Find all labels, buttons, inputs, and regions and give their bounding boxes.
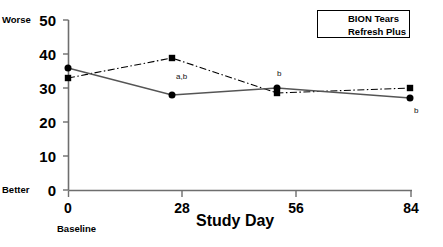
series-line-refresh-plus [68,58,410,93]
series-markers-bion-tears [65,65,414,102]
y-axis-bottom-label: Better [2,185,29,195]
x-axis-baseline-label: Baseline [57,224,96,234]
annotation-day84: b [414,107,418,115]
x-tick-label-0: 0 [48,201,88,215]
data-point-bion-0 [65,65,72,72]
annotation-day28: a,b [176,73,187,81]
chart-legend: BION Tears Refresh Plus [317,10,410,38]
legend-marker-square-icon [318,26,348,38]
y-tick-label-40: 40 [30,47,56,62]
x-axis-ticks [69,191,412,198]
y-tick-label-50: 50 [30,13,56,28]
y-tick-label-10: 10 [30,149,56,164]
data-point-bion-1 [169,92,176,99]
x-tick-label-84: 84 [391,201,431,215]
data-point-refresh-1 [169,55,175,61]
y-axis-top-label: Worse [2,15,31,25]
legend-item-refresh-plus: Refresh Plus [318,25,411,38]
legend-marker-circle-icon [318,13,348,25]
x-axis-title: Study Day [196,213,274,229]
y-tick-label-20: 20 [30,115,56,130]
data-point-bion-2 [274,85,281,92]
series-line-bion-tears [68,68,410,98]
data-point-bion-3 [407,95,414,102]
y-tick-label-30: 30 [30,81,56,96]
data-point-refresh-3 [407,85,413,91]
line-chart: 50 40 30 20 10 0 Worse Better 0 28 56 84… [0,0,443,247]
annotation-day56: b [277,70,281,78]
y-axis-ticks [63,20,69,190]
x-tick-label-56: 56 [276,201,316,215]
y-tick-label-0: 0 [30,183,56,198]
data-point-refresh-0 [65,75,71,81]
legend-item-bion-tears: BION Tears [318,12,411,25]
legend-label-refresh-plus: Refresh Plus [348,27,406,37]
legend-label-bion-tears: BION Tears [348,14,399,24]
